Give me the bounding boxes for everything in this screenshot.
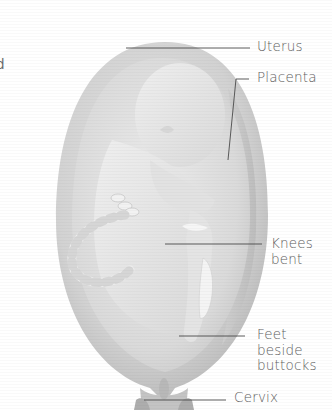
label-uterus: Uterus (257, 39, 303, 55)
partial-label-left: d (0, 56, 5, 72)
breech-diagram: d Uterus Placenta Knees bent Feet beside… (0, 0, 332, 410)
label-placenta: Placenta (257, 70, 317, 86)
label-cervix: Cervix (234, 390, 278, 406)
label-feet-beside-buttocks: Feet beside buttocks (257, 327, 317, 374)
label-knees-bent: Knees bent (271, 236, 313, 267)
